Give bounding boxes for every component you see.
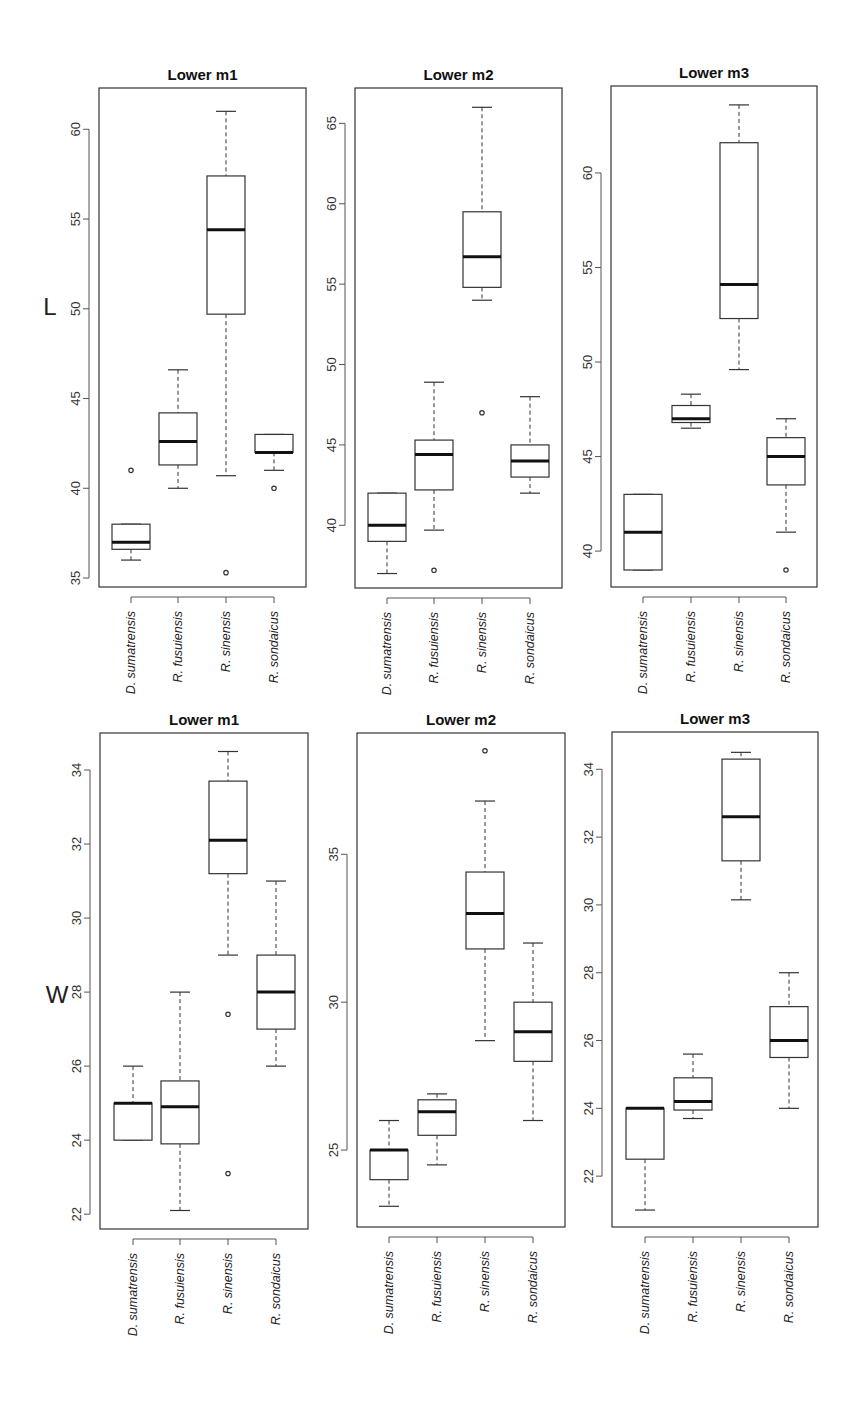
box-r-fusuiensis (159, 370, 197, 488)
iqr-box (674, 1078, 712, 1110)
outlier-point (226, 1171, 230, 1175)
boxplot-panel-5: Lower m2253035D. sumatrensisR. fusuiensi… (326, 711, 565, 1334)
box-r-sinensis (720, 105, 758, 370)
iqr-box (770, 1007, 808, 1058)
y-tick-label: 40 (324, 518, 339, 532)
y-tick-label: 28 (581, 965, 596, 979)
y-tick-label: 55 (68, 212, 83, 226)
boxplot-panel-2: Lower m2404550556065D. sumatrensisR. fus… (324, 66, 562, 695)
box-r-sinensis (207, 111, 245, 575)
outlier-point (272, 486, 276, 490)
iqr-box (161, 1081, 199, 1144)
y-tick-label: 65 (324, 116, 339, 130)
y-tick-label: 30 (69, 911, 84, 925)
iqr-box (722, 759, 760, 861)
category-label: D. sumatrensis (382, 1251, 396, 1334)
box-r-fusuiensis (674, 1054, 712, 1118)
plot-frame (99, 88, 306, 587)
box-r-sondaicus (767, 419, 805, 572)
category-label: R. sondaicus (267, 611, 281, 683)
category-label: R. fusuiensis (171, 611, 185, 683)
box-d-sumatrensis (626, 1108, 664, 1210)
outlier-point (129, 468, 133, 472)
y-tick-label: 28 (69, 985, 84, 999)
outlier-point (226, 1012, 230, 1016)
boxplot-panel-3: Lower m34045505560D. sumatrensisR. fusui… (580, 64, 817, 694)
y-tick-label: 35 (326, 847, 341, 861)
y-tick-label: 32 (581, 830, 596, 844)
category-label: R. fusuiensis (686, 1251, 700, 1323)
category-label: R. sinensis (219, 611, 233, 672)
y-tick-label: 40 (580, 544, 595, 558)
iqr-box (255, 434, 293, 452)
box-r-sinensis (463, 107, 501, 415)
y-tick-label: 22 (581, 1169, 596, 1183)
iqr-box (159, 413, 197, 465)
iqr-box (767, 438, 805, 485)
boxplot-panel-1: Lower m1354045505560D. sumatrensisR. fus… (68, 66, 306, 694)
y-tick-label: 30 (326, 995, 341, 1009)
outlier-point (483, 749, 487, 753)
iqr-box (112, 524, 150, 549)
iqr-box (466, 872, 504, 949)
y-tick-label: 26 (581, 1033, 596, 1047)
box-r-fusuiensis (161, 992, 199, 1210)
iqr-box (415, 440, 453, 490)
box-r-sondaicus (770, 973, 808, 1109)
y-tick-label: 60 (580, 166, 595, 180)
iqr-box (720, 143, 758, 319)
boxplot-figure: Lower m1354045505560D. sumatrensisR. fus… (0, 0, 867, 1404)
category-label: R. sinensis (478, 1251, 492, 1312)
iqr-box (114, 1103, 152, 1140)
y-tick-label: 26 (69, 1059, 84, 1073)
box-r-sondaicus (257, 881, 295, 1066)
iqr-box (207, 176, 245, 314)
panel-title: Lower m1 (167, 66, 237, 83)
y-tick-label: 34 (581, 762, 596, 776)
box-d-sumatrensis (370, 1121, 408, 1207)
y-tick-label: 45 (68, 391, 83, 405)
y-tick-label: 45 (580, 449, 595, 463)
category-label: D. sumatrensis (380, 612, 394, 695)
box-d-sumatrensis (112, 468, 150, 560)
y-tick-label: 50 (68, 302, 83, 316)
y-tick-label: 30 (581, 898, 596, 912)
category-label: R. sondaicus (269, 1253, 283, 1325)
category-label: R. fusuiensis (427, 612, 441, 684)
iqr-box (209, 781, 247, 874)
box-r-sinensis (209, 752, 247, 1176)
box-d-sumatrensis (368, 493, 406, 573)
outlier-point (784, 568, 788, 572)
y-tick-label: 35 (68, 571, 83, 585)
box-r-sondaicus (255, 434, 293, 490)
box-r-sondaicus (511, 397, 549, 493)
category-label: D. sumatrensis (126, 1253, 140, 1336)
y-tick-label: 34 (69, 763, 84, 777)
box-r-sinensis (466, 749, 504, 1041)
iqr-box (463, 212, 501, 288)
category-label: R. sondaicus (779, 611, 793, 683)
box-d-sumatrensis (624, 494, 662, 570)
y-tick-label: 25 (326, 1143, 341, 1157)
y-tick-label: 60 (68, 122, 83, 136)
panel-title: Lower m2 (426, 711, 496, 728)
y-tick-label: 60 (324, 197, 339, 211)
category-label: R. sinensis (732, 611, 746, 672)
category-label: R. sinensis (221, 1253, 235, 1314)
y-tick-label: 45 (324, 438, 339, 452)
y-tick-label: 22 (69, 1207, 84, 1221)
category-label: D. sumatrensis (636, 611, 650, 694)
box-r-fusuiensis (415, 382, 453, 572)
box-r-fusuiensis (672, 394, 710, 428)
category-label: R. sinensis (475, 612, 489, 673)
category-label: D. sumatrensis (638, 1251, 652, 1334)
category-label: R. fusuiensis (173, 1253, 187, 1325)
y-tick-label: 24 (581, 1101, 596, 1115)
iqr-box (368, 493, 406, 541)
category-label: R. fusuiensis (430, 1251, 444, 1323)
y-tick-label: 55 (580, 260, 595, 274)
iqr-box (418, 1100, 456, 1135)
box-d-sumatrensis (114, 1066, 152, 1140)
y-tick-label: 40 (68, 481, 83, 495)
row-label-width: W (46, 981, 69, 1008)
